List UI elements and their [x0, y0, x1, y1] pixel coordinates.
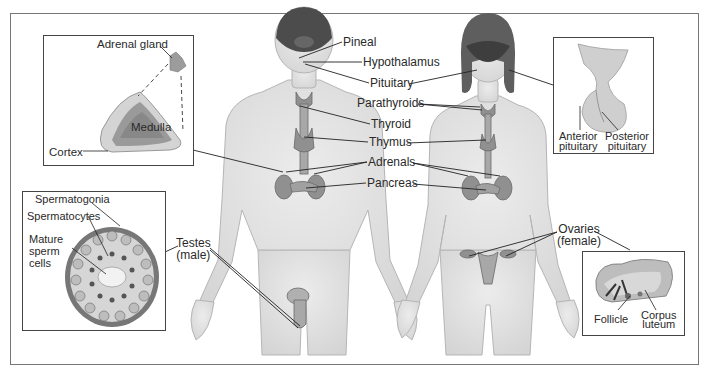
label-cortex: Cortex — [49, 146, 83, 158]
label-pancreas: Pancreas — [367, 177, 418, 189]
label-mature-line3: cells — [29, 257, 51, 269]
label-adrenals: Adrenals — [368, 156, 415, 168]
label-posterior-line2: pituitary — [608, 140, 647, 152]
label-pineal: Pineal — [343, 36, 376, 48]
label-corpus-luteum: Corpus luteum — [641, 311, 676, 329]
label-medulla: Medulla — [131, 121, 171, 133]
label-adrenal-gland: Adrenal gland — [97, 38, 168, 50]
label-thyroid: Thyroid — [371, 118, 411, 130]
label-posterior-pituitary: Posterior pituitary — [605, 131, 649, 151]
label-ovaries: Ovaries (female) — [557, 223, 601, 247]
label-anterior-line2: pituitary — [559, 140, 598, 152]
label-pituitary: Pituitary — [370, 77, 413, 89]
label-mature-line1: Mature — [29, 233, 63, 245]
label-follicle: Follicle — [594, 313, 628, 325]
label-hypothalamus: Hypothalamus — [363, 56, 440, 68]
label-ovaries-line2: (female) — [557, 234, 601, 248]
label-spermatogonia: Spermatogonia — [35, 193, 110, 205]
label-thymus: Thymus — [369, 136, 412, 148]
label-testes: Testes (male) — [176, 237, 211, 261]
label-spermatocytes: Spermatocytes — [27, 210, 100, 222]
label-anterior-pituitary: Anterior pituitary — [559, 131, 598, 151]
label-parathyroids: Parathyroids — [357, 97, 424, 109]
label-corpus-line2: luteum — [642, 318, 675, 330]
label-mature-line2: sperm — [29, 245, 60, 257]
label-mature-sperm: Mature sperm cells — [29, 233, 63, 269]
label-testes-line2: (male) — [176, 248, 210, 262]
